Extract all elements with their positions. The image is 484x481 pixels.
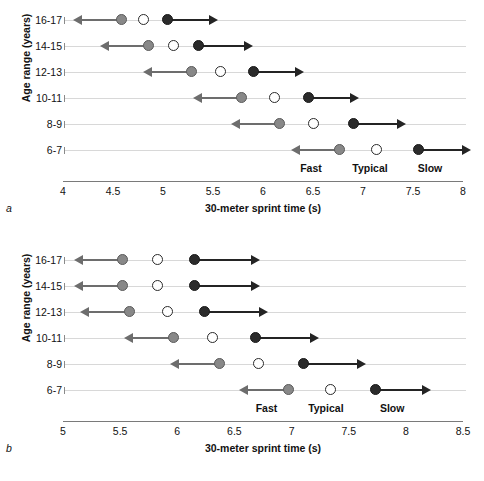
typical-marker [207, 332, 218, 343]
zone-label-typical: Typical [308, 402, 343, 414]
row-tick [64, 121, 65, 128]
fast-marker [168, 332, 179, 343]
slow-marker [303, 92, 314, 103]
x-axis-line-a [63, 181, 463, 182]
slow-arrow [198, 45, 245, 47]
arrow-left-icon [74, 281, 83, 291]
slow-arrow [194, 259, 251, 261]
zone-label-fast: Fast [256, 402, 278, 414]
slow-marker [193, 40, 204, 51]
x-tick-label: 8.5 [456, 425, 471, 437]
arrow-left-icon [124, 333, 133, 343]
age-row: 12-13 [0, 60, 484, 86]
fast-marker [143, 40, 154, 51]
arrow-left-icon [291, 145, 300, 155]
x-tick-label: 4 [60, 185, 66, 197]
x-axis-title-b: 30-meter sprint time (s) [63, 442, 463, 454]
age-row: 8-9 [0, 112, 484, 138]
x-axis-line-b [63, 421, 463, 422]
age-row: 8-9 [0, 352, 484, 378]
panel-letter-b: b [6, 442, 12, 454]
row-label-10-11: 10-11 [10, 332, 62, 344]
age-row: 12-13 [0, 300, 484, 326]
fast-marker [116, 14, 127, 25]
fast-marker [117, 280, 128, 291]
slow-arrow [194, 285, 251, 287]
arrow-left-icon [100, 41, 109, 51]
arrow-left-icon [231, 119, 240, 129]
row-label-12-13: 12-13 [10, 66, 62, 78]
slow-arrow [418, 149, 463, 151]
fast-marker [334, 144, 345, 155]
slow-marker [250, 332, 261, 343]
slow-marker [413, 144, 424, 155]
row-baseline [64, 150, 466, 151]
slow-marker [199, 306, 210, 317]
zone-label-slow: Slow [380, 402, 405, 414]
x-tick-label: 7.5 [341, 425, 356, 437]
x-tick-label: 6 [260, 185, 266, 197]
arrow-right-icon [397, 119, 406, 129]
fast-marker [236, 92, 247, 103]
age-row: 10-11 [0, 86, 484, 112]
arrow-right-icon [310, 333, 319, 343]
arrow-left-icon [74, 255, 83, 265]
row-baseline [64, 364, 466, 365]
row-tick [64, 69, 65, 76]
row-tick [64, 309, 65, 316]
x-tick-label: 4.5 [106, 185, 121, 197]
row-tick [64, 257, 65, 264]
x-axis-title-a: 30-meter sprint time (s) [63, 202, 463, 214]
age-row: 14-15 [0, 274, 484, 300]
slow-arrow [205, 311, 260, 313]
age-row: 10-11 [0, 326, 484, 352]
slow-arrow [167, 19, 210, 21]
row-tick [64, 95, 65, 102]
arrow-left-icon [143, 67, 152, 77]
arrow-right-icon [244, 41, 253, 51]
x-tick-label: 6 [174, 425, 180, 437]
slow-arrow [303, 363, 358, 365]
typical-marker [371, 144, 382, 155]
panel-a: Age range (years) 16-1714-1512-1310-118-… [0, 0, 484, 232]
zone-label-fast: Fast [300, 162, 322, 174]
x-tick-label: 7 [289, 425, 295, 437]
row-tick [64, 335, 65, 342]
fast-marker [274, 118, 285, 129]
age-row: 16-17 [0, 8, 484, 34]
slow-arrow [375, 389, 423, 391]
arrow-right-icon [295, 67, 304, 77]
arrow-right-icon [259, 307, 268, 317]
row-tick [64, 17, 65, 24]
fast-marker [283, 384, 294, 395]
row-tick [64, 283, 65, 290]
age-row: 16-17 [0, 248, 484, 274]
fast-marker [186, 66, 197, 77]
typical-marker [253, 358, 264, 369]
fast-arrow [247, 389, 288, 391]
row-tick [64, 361, 65, 368]
x-tick-label: 6.5 [227, 425, 242, 437]
row-label-8-9: 8-9 [10, 358, 62, 370]
typical-marker [269, 92, 280, 103]
arrow-right-icon [209, 15, 218, 25]
zone-labels-a: FastTypicalSlow [0, 162, 484, 178]
slow-arrow [353, 123, 398, 125]
zone-label-typical: Typical [352, 162, 387, 174]
slow-marker [189, 254, 200, 265]
x-tick-label: 5.5 [206, 185, 221, 197]
slow-marker [248, 66, 259, 77]
zone-label-slow: Slow [418, 162, 443, 174]
row-label-16-17: 16-17 [10, 14, 62, 26]
row-baseline [64, 98, 466, 99]
slow-marker [370, 384, 381, 395]
row-tick [64, 43, 65, 50]
age-row: 6-7 [0, 138, 484, 164]
row-label-10-11: 10-11 [10, 92, 62, 104]
x-tick-label: 5 [160, 185, 166, 197]
typical-marker [138, 14, 149, 25]
panel-letter-a: a [6, 202, 12, 214]
arrow-right-icon [422, 385, 431, 395]
row-label-14-15: 14-15 [10, 280, 62, 292]
slow-marker [189, 280, 200, 291]
